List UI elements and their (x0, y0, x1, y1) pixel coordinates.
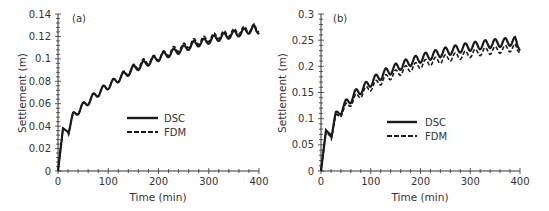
svg-text:0.14: 0.14 (29, 9, 51, 20)
svg-text:0.12: 0.12 (29, 31, 51, 42)
svg-text:0: 0 (55, 176, 61, 187)
svg-text:0.04: 0.04 (29, 121, 51, 132)
fdm-line-a (58, 24, 259, 171)
svg-text:0.08: 0.08 (29, 76, 51, 87)
svg-text:0.25: 0.25 (292, 35, 314, 46)
legend-dsc-label-b: DSC (425, 117, 446, 128)
panel-label-a: (a) (72, 13, 86, 24)
svg-text:200: 200 (411, 176, 430, 187)
dsc-line-b (321, 37, 520, 171)
svg-text:300: 300 (461, 176, 480, 187)
panel-label-b: (b) (333, 13, 347, 24)
svg-text:0.1: 0.1 (35, 53, 51, 64)
y-axis-title-a: Settlement (m) (16, 53, 28, 133)
legend-a: DSC FDM (127, 113, 186, 138)
legend-fdm-label-b: FDM (425, 131, 447, 142)
y-axis-title-b: Settlement (m) (276, 53, 288, 133)
svg-text:100: 100 (99, 176, 118, 187)
svg-text:0: 0 (318, 176, 324, 187)
legend-dsc-label-a: DSC (164, 113, 185, 124)
figure: 010020030040000.020.040.060.080.10.120.1… (0, 0, 549, 211)
svg-text:100: 100 (361, 176, 380, 187)
legend-b: DSC FDM (387, 117, 447, 142)
axes-b: 010020030040000.050.10.150.20.250.3 (292, 9, 530, 188)
svg-text:0.06: 0.06 (29, 98, 51, 109)
legend-fdm-label-a: FDM (164, 127, 186, 138)
svg-text:0.15: 0.15 (292, 87, 314, 98)
svg-text:300: 300 (199, 176, 218, 187)
svg-text:400: 400 (510, 176, 529, 187)
chart-panel-a: 010020030040000.020.040.060.080.10.120.1… (16, 9, 269, 204)
x-axis-title-a: Time (min) (128, 191, 186, 203)
svg-text:0.05: 0.05 (292, 139, 314, 150)
x-axis-title-b: Time (min) (390, 191, 448, 203)
svg-text:200: 200 (149, 176, 168, 187)
svg-text:0.02: 0.02 (29, 143, 51, 154)
svg-text:0.3: 0.3 (298, 9, 314, 20)
svg-text:400: 400 (249, 176, 268, 187)
chart-panel-b: 010020030040000.050.10.150.20.250.3 (b) … (276, 9, 530, 204)
svg-text:0: 0 (45, 166, 51, 177)
svg-text:0.2: 0.2 (298, 61, 314, 72)
axes-a: 010020030040000.020.040.060.080.10.120.1… (29, 9, 269, 188)
dsc-line-a (58, 25, 259, 171)
svg-text:0: 0 (308, 166, 314, 177)
svg-text:0.1: 0.1 (298, 113, 314, 124)
